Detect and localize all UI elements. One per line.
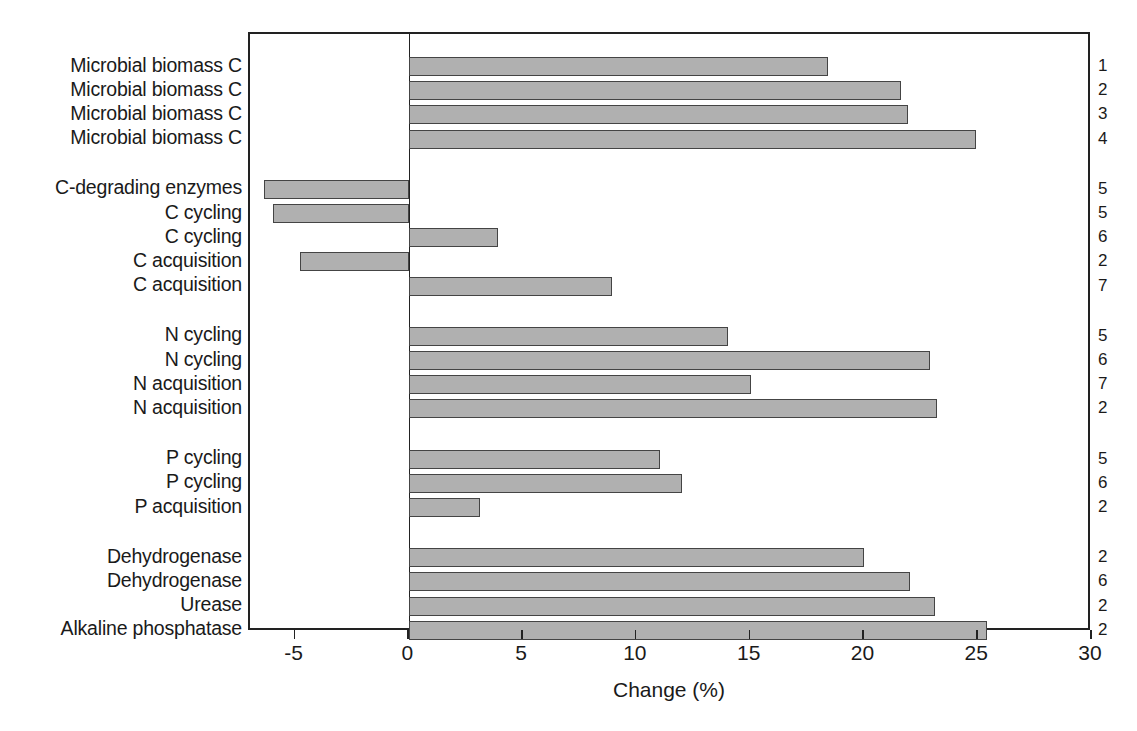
x-axis-tick bbox=[1090, 630, 1092, 639]
bar bbox=[409, 450, 659, 469]
bar bbox=[273, 204, 410, 223]
bar bbox=[409, 277, 612, 296]
reference-number: 2 bbox=[1098, 548, 1107, 565]
reference-number: 4 bbox=[1098, 130, 1107, 147]
reference-number: 2 bbox=[1098, 621, 1107, 638]
x-axis-tick-label: 15 bbox=[737, 642, 760, 663]
bar bbox=[409, 399, 937, 418]
reference-number: 2 bbox=[1098, 81, 1107, 98]
bar bbox=[409, 572, 910, 591]
bar bbox=[409, 498, 480, 517]
reference-number: 6 bbox=[1098, 474, 1107, 491]
reference-number: 6 bbox=[1098, 351, 1107, 368]
reference-number: 2 bbox=[1098, 498, 1107, 515]
reference-number: 5 bbox=[1098, 450, 1107, 467]
category-label: C acquisition bbox=[2, 251, 242, 270]
category-label: Urease bbox=[2, 595, 242, 614]
category-label: C cycling bbox=[2, 203, 242, 222]
category-label: C-degrading enzymes bbox=[2, 178, 242, 197]
category-label: P cycling bbox=[2, 472, 242, 491]
x-axis-tick bbox=[407, 630, 409, 639]
x-axis-tick bbox=[635, 630, 637, 639]
reference-number: 2 bbox=[1098, 597, 1107, 614]
bar bbox=[300, 252, 409, 271]
reference-number: 6 bbox=[1098, 228, 1107, 245]
x-axis-tick bbox=[521, 630, 523, 639]
bar bbox=[409, 597, 935, 616]
x-axis-tick bbox=[976, 630, 978, 639]
x-axis-tick bbox=[749, 630, 751, 639]
bar bbox=[409, 81, 901, 100]
reference-number: 2 bbox=[1098, 399, 1107, 416]
reference-number: 7 bbox=[1098, 277, 1107, 294]
x-axis-title: Change (%) bbox=[248, 678, 1090, 702]
category-label: Microbial biomass C bbox=[2, 104, 242, 123]
category-label: C cycling bbox=[2, 227, 242, 246]
category-label: Microbial biomass C bbox=[2, 56, 242, 75]
category-label-column: Microbial biomass CMicrobial biomass CMi… bbox=[0, 32, 242, 630]
category-label: N cycling bbox=[2, 350, 242, 369]
category-label: Dehydrogenase bbox=[2, 571, 242, 590]
reference-number: 2 bbox=[1098, 252, 1107, 269]
x-axis-tick bbox=[862, 630, 864, 639]
plot-area bbox=[248, 32, 1090, 630]
bar bbox=[409, 351, 930, 370]
category-label: Microbial biomass C bbox=[2, 80, 242, 99]
bar bbox=[409, 474, 682, 493]
category-label: Alkaline phosphatase bbox=[2, 619, 242, 638]
bar bbox=[409, 228, 498, 247]
x-axis-tick-label: 0 bbox=[401, 642, 413, 663]
reference-number: 7 bbox=[1098, 375, 1107, 392]
reference-number-column: 12345562756725622622 bbox=[1090, 32, 1137, 630]
reference-number: 5 bbox=[1098, 180, 1107, 197]
bar bbox=[409, 130, 976, 149]
category-label: P cycling bbox=[2, 448, 242, 467]
reference-number: 6 bbox=[1098, 572, 1107, 589]
category-label: N cycling bbox=[2, 325, 242, 344]
x-axis-tick-label: 10 bbox=[623, 642, 646, 663]
reference-number: 5 bbox=[1098, 204, 1107, 221]
x-axis-tick-label: 5 bbox=[515, 642, 527, 663]
category-label: Microbial biomass C bbox=[2, 128, 242, 147]
bar bbox=[409, 327, 728, 346]
category-label: N acquisition bbox=[2, 374, 242, 393]
reference-number: 3 bbox=[1098, 105, 1107, 122]
bar bbox=[264, 180, 410, 199]
bar bbox=[409, 105, 907, 124]
bar bbox=[409, 548, 864, 567]
x-axis-tick bbox=[294, 630, 296, 639]
category-label: Dehydrogenase bbox=[2, 547, 242, 566]
x-axis-tick-label: 30 bbox=[1078, 642, 1101, 663]
reference-number: 1 bbox=[1098, 57, 1107, 74]
category-label: C acquisition bbox=[2, 275, 242, 294]
x-axis-tick-label: 25 bbox=[965, 642, 988, 663]
x-axis-tick-label: -5 bbox=[284, 642, 303, 663]
reference-number: 5 bbox=[1098, 327, 1107, 344]
x-axis-tick-label: 20 bbox=[851, 642, 874, 663]
category-label: P acquisition bbox=[2, 497, 242, 516]
bar bbox=[409, 57, 828, 76]
bar-chart-figure: Microbial biomass CMicrobial biomass CMi… bbox=[0, 0, 1137, 731]
category-label: N acquisition bbox=[2, 398, 242, 417]
bar bbox=[409, 375, 750, 394]
